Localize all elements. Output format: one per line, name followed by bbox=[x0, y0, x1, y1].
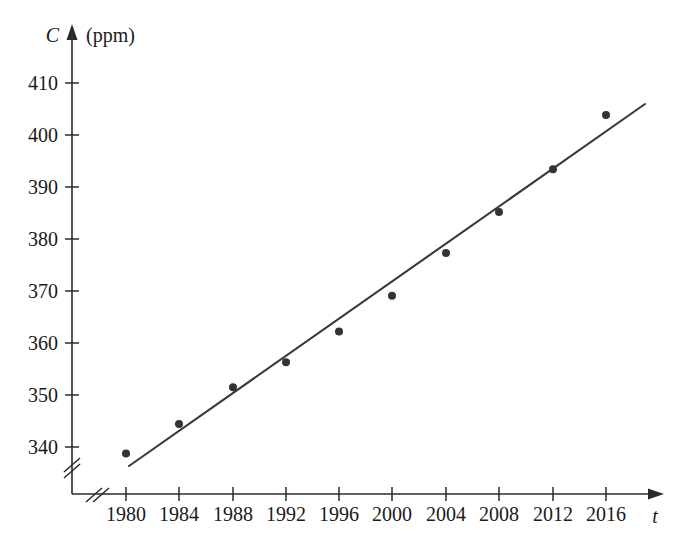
y-tick-label-340: 340 bbox=[28, 436, 58, 458]
x-tick-label-2004: 2004 bbox=[426, 503, 466, 525]
x-tick-label-1980: 1980 bbox=[106, 503, 146, 525]
data-point-2016 bbox=[602, 111, 610, 119]
x-tick-label-1988: 1988 bbox=[213, 503, 253, 525]
data-point-2004 bbox=[442, 249, 450, 257]
y-axis-unit-label: (ppm) bbox=[86, 24, 135, 47]
data-points-group bbox=[122, 111, 610, 458]
x-axis-tick-labels: 1980 1984 1988 1992 1996 2000 2004 2008 … bbox=[106, 503, 626, 525]
x-tick-label-1996: 1996 bbox=[319, 503, 359, 525]
y-axis-arrowhead bbox=[67, 24, 78, 40]
y-tick-label-380: 380 bbox=[28, 228, 58, 250]
data-point-1988 bbox=[229, 383, 237, 391]
y-axis-variable-label: C bbox=[46, 24, 60, 46]
data-point-2012 bbox=[549, 165, 557, 173]
data-point-1980 bbox=[122, 450, 130, 458]
data-point-1984 bbox=[175, 420, 183, 428]
data-point-1992 bbox=[282, 358, 290, 366]
y-axis bbox=[67, 24, 78, 494]
y-tick-label-360: 360 bbox=[28, 332, 58, 354]
y-tick-label-350: 350 bbox=[28, 384, 58, 406]
scatter-plot-canvas: 340 350 360 370 380 390 400 410 1980 198… bbox=[0, 0, 681, 543]
regression-line bbox=[129, 104, 645, 466]
data-point-2000 bbox=[388, 292, 396, 300]
data-point-2008 bbox=[495, 208, 503, 216]
x-axis-title: t bbox=[652, 505, 658, 527]
x-tick-label-2000: 2000 bbox=[372, 503, 412, 525]
x-tick-label-1984: 1984 bbox=[159, 503, 199, 525]
y-axis-tick-labels: 340 350 360 370 380 390 400 410 bbox=[28, 72, 58, 458]
x-tick-label-2012: 2012 bbox=[533, 503, 573, 525]
data-point-1996 bbox=[335, 328, 343, 336]
x-axis bbox=[72, 489, 664, 500]
x-axis-break-marks bbox=[86, 488, 109, 502]
y-tick-label-390: 390 bbox=[28, 176, 58, 198]
y-tick-label-410: 410 bbox=[28, 72, 58, 94]
x-tick-label-1992: 1992 bbox=[266, 503, 306, 525]
x-tick-label-2016: 2016 bbox=[586, 503, 626, 525]
y-tick-label-400: 400 bbox=[28, 124, 58, 146]
x-axis-arrowhead bbox=[648, 489, 664, 500]
x-tick-label-2008: 2008 bbox=[479, 503, 519, 525]
y-tick-label-370: 370 bbox=[28, 280, 58, 302]
chart-figure: 340 350 360 370 380 390 400 410 1980 198… bbox=[0, 0, 681, 543]
